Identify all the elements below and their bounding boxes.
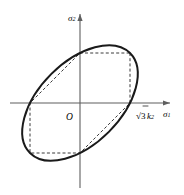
sigma2-subscript: 2 [72, 16, 75, 22]
origin-label: O [66, 106, 73, 124]
stress-locus-figure: σ2 σ1 O √3k2 [0, 0, 184, 195]
sigma2-axis-label: σ2 [68, 7, 75, 25]
intercept-subscript: 2 [151, 114, 154, 120]
x-intercept-label: √3k2 [136, 105, 154, 123]
figure-canvas [0, 0, 184, 195]
origin-symbol: O [66, 112, 73, 122]
sigma1-axis-label: σ1 [163, 103, 170, 121]
sigma2-axis-arrowhead [77, 14, 82, 21]
axes-group [10, 14, 170, 188]
sigma1-subscript: 1 [167, 112, 170, 118]
